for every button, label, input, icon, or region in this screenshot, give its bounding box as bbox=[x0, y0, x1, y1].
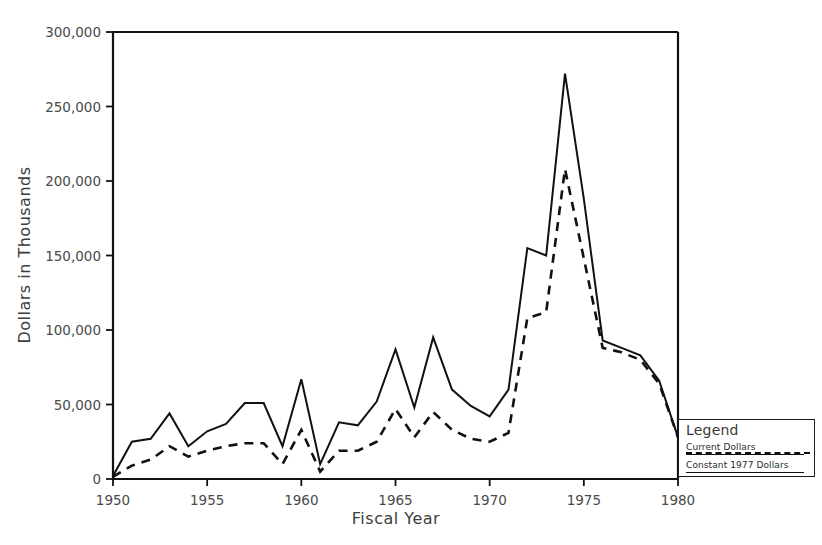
y-tick-label: 200,000 bbox=[45, 173, 101, 189]
y-tick-label: 100,000 bbox=[45, 322, 101, 338]
y-tick-label: 250,000 bbox=[45, 99, 101, 115]
legend-entry-constant-1977-dollars: Constant 1977 Dollars bbox=[686, 460, 789, 470]
chart-canvas: 050,000100,000150,000200,000250,000300,0… bbox=[0, 0, 822, 545]
y-tick-label: 300,000 bbox=[45, 24, 101, 40]
x-tick-label: 1955 bbox=[190, 492, 224, 508]
legend-swatch-dashed bbox=[686, 452, 810, 454]
x-axis-tick-labels: 1950195519601965197019751980 bbox=[96, 492, 695, 508]
x-tick-label: 1950 bbox=[96, 492, 130, 508]
series-line-current-dollars bbox=[113, 74, 678, 476]
legend-entry-current-dollars: Current Dollars bbox=[686, 442, 756, 452]
legend: Legend Current Dollars Constant 1977 Dol… bbox=[678, 419, 815, 477]
y-axis-tick-labels: 050,000100,000150,000200,000250,000300,0… bbox=[45, 24, 101, 487]
data-series-layer bbox=[113, 74, 678, 477]
x-tick-label: 1960 bbox=[284, 492, 318, 508]
legend-title: Legend bbox=[686, 422, 739, 438]
series-line-constant-1977-dollars bbox=[113, 169, 678, 477]
axis-frame bbox=[113, 32, 678, 479]
x-tick-label: 1980 bbox=[661, 492, 695, 508]
y-axis-title: Dollars in Thousands bbox=[15, 166, 34, 343]
x-tick-label: 1975 bbox=[567, 492, 601, 508]
x-tick-label: 1970 bbox=[472, 492, 506, 508]
legend-underline-constant bbox=[686, 472, 804, 473]
y-tick-label: 0 bbox=[92, 471, 101, 487]
x-tick-label: 1965 bbox=[378, 492, 412, 508]
y-tick-label: 150,000 bbox=[45, 248, 101, 264]
y-tick-label: 50,000 bbox=[54, 397, 101, 413]
x-axis-title: Fiscal Year bbox=[352, 509, 440, 528]
legend-swatch-solid bbox=[686, 454, 804, 455]
